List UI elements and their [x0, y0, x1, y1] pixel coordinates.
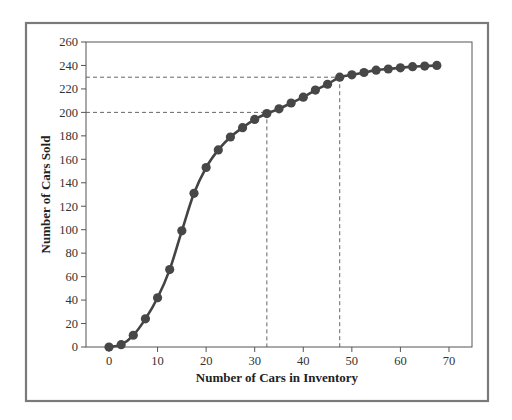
data-point [250, 115, 259, 124]
data-point [372, 66, 381, 75]
data-point [202, 163, 211, 172]
x-tick-label: 40 [297, 354, 310, 368]
y-tick-label: 120 [59, 200, 78, 214]
data-point [226, 132, 235, 141]
y-tick-label: 240 [59, 59, 78, 73]
y-tick-label: 180 [59, 129, 78, 143]
x-tick-label: 0 [106, 354, 112, 368]
data-markers [104, 61, 441, 352]
y-axis: 020406080100120140160180200220240260 [59, 35, 86, 354]
y-tick-label: 100 [59, 223, 78, 237]
y-tick-label: 40 [66, 293, 79, 307]
y-tick-label: 140 [59, 176, 78, 190]
data-point [347, 70, 356, 79]
x-tick-label: 70 [443, 354, 456, 368]
y-tick-label: 200 [59, 106, 78, 120]
y-tick-label: 60 [66, 270, 79, 284]
data-point [432, 61, 441, 70]
data-point [359, 68, 368, 77]
data-point [396, 63, 405, 72]
x-tick-label: 20 [200, 354, 213, 368]
data-point [384, 64, 393, 73]
data-point [165, 265, 174, 274]
chart: 020406080100120140160180200220240260 010… [0, 0, 512, 420]
outer-frame [26, 23, 488, 401]
data-point [274, 104, 283, 113]
data-point [420, 61, 429, 70]
data-point [287, 98, 296, 107]
y-axis-label: Number of Cars Sold [38, 135, 53, 254]
data-point [153, 293, 162, 302]
plot-area [86, 42, 472, 347]
data-point [262, 109, 271, 118]
x-tick-label: 30 [248, 354, 261, 368]
data-point [104, 342, 113, 351]
data-point [214, 145, 223, 154]
data-line [109, 65, 437, 347]
data-point [408, 62, 417, 71]
y-tick-label: 0 [72, 340, 78, 354]
data-point [238, 123, 247, 132]
data-point [299, 93, 308, 102]
x-tick-label: 50 [346, 354, 359, 368]
reference-lines [86, 77, 340, 347]
data-point [177, 226, 186, 235]
y-tick-label: 20 [66, 317, 79, 331]
y-tick-label: 160 [59, 153, 78, 167]
x-axis: 010203040506070 [106, 347, 455, 368]
x-axis-label: Number of Cars in Inventory [196, 370, 359, 385]
x-tick-label: 10 [151, 354, 164, 368]
y-tick-label: 80 [66, 246, 79, 260]
data-point [141, 314, 150, 323]
data-point [323, 80, 332, 89]
y-tick-label: 260 [59, 35, 78, 49]
data-point [129, 331, 138, 340]
x-tick-label: 60 [394, 354, 407, 368]
data-point [335, 73, 344, 82]
data-point [189, 189, 198, 198]
data-point [311, 85, 320, 94]
y-tick-label: 220 [59, 82, 78, 96]
data-point [117, 340, 126, 349]
